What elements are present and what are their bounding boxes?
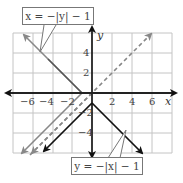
y-tick-neg4: −4 <box>78 128 93 138</box>
x-tick-neg4: −4 <box>39 97 54 107</box>
callout-top-pointer <box>40 25 56 52</box>
label-y-equals-neg-abs-x-minus-1: y = −|x| − 1 <box>71 157 143 175</box>
label-x-equals-neg-abs-y-minus-1: x = −|y| − 1 <box>22 7 94 25</box>
y-axis-label: y <box>97 30 103 41</box>
x-tick-2: 2 <box>109 97 115 107</box>
graph-canvas <box>0 0 183 183</box>
y-tick-4: 4 <box>83 48 89 58</box>
callout-bottom-pointer <box>108 130 126 158</box>
x-axis-label: x <box>165 96 171 107</box>
x-tick-4: 4 <box>129 97 135 107</box>
x-tick-neg2: −2 <box>60 97 75 107</box>
x-tick-neg6: −6 <box>20 97 35 107</box>
y-tick-2: 2 <box>83 68 89 78</box>
y-tick-neg2: −2 <box>78 108 93 118</box>
x-tick-6: 6 <box>149 97 155 107</box>
